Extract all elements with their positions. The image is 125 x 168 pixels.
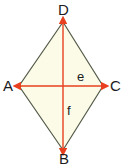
- vertex-label-a: A: [3, 78, 13, 93]
- geometry-figure: D A C B e f: [0, 0, 125, 168]
- diagonal-label-f: f: [67, 104, 71, 117]
- vertex-label-b: B: [59, 151, 69, 166]
- rhombus-diagram-svg: [0, 0, 125, 168]
- vertex-label-c: C: [110, 78, 121, 93]
- diagonal-label-e: e: [77, 70, 84, 83]
- vertex-label-d: D: [58, 2, 69, 17]
